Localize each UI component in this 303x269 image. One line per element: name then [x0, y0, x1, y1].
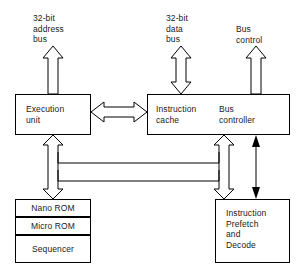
execution-to-control-store-arrow [43, 135, 63, 199]
data-bus-arrow [171, 46, 191, 94]
cpu-block-diagram: 32-bit address bus 32-bit data bus Bus c… [0, 0, 303, 269]
internal-bus-upper-line [58, 152, 219, 163]
controller-to-prefetch-arrowhead-up [252, 135, 260, 147]
connector-layer [0, 0, 303, 269]
address-bus-arrow [43, 46, 63, 94]
execution-to-cache-arrow [91, 102, 147, 122]
cache-to-prefetch-arrow [214, 135, 234, 199]
bus-control-arrow [246, 46, 266, 94]
controller-to-prefetch-arrowhead-down [252, 187, 260, 199]
internal-bus-lower-line [58, 170, 219, 181]
